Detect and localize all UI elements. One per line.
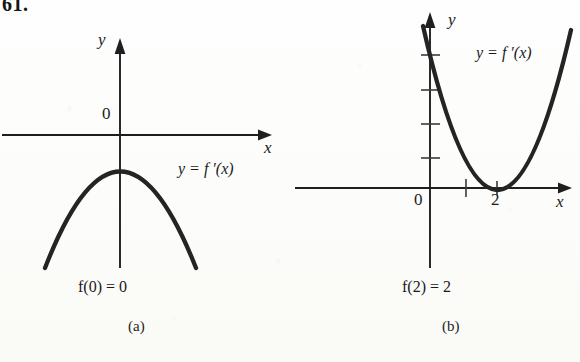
figure-panel-a: y x 0 y = f ′(x) f(0) = 0 (a) <box>0 0 290 362</box>
figure-panel-b: y x 0 2 y = f ′(x) f(2) = 2 (b) <box>290 0 580 362</box>
origin-label-a: 0 <box>102 104 111 124</box>
x-axis-label-a: x <box>264 138 272 158</box>
panel-caption-a: (a) <box>128 318 145 335</box>
curve-label-b: y = f ′(x) <box>476 44 532 62</box>
x-axis-label-b: x <box>556 192 564 212</box>
figure-page: 61. y x 0 y = f ′(x) f(0) = 0 (a) <box>0 0 580 362</box>
x-axis-a <box>2 130 272 141</box>
x-axis-b <box>295 183 572 194</box>
x-tick-label-2-b: 2 <box>491 190 500 210</box>
y-axis-label-b: y <box>448 10 456 30</box>
y-axis-a <box>115 38 126 268</box>
panel-b-graph <box>290 0 580 362</box>
curve-label-a: y = f ′(x) <box>178 160 234 178</box>
panel-a-graph <box>0 0 290 362</box>
condition-a: f(0) = 0 <box>78 278 127 296</box>
origin-label-b: 0 <box>414 190 423 210</box>
panel-caption-b: (b) <box>442 318 460 335</box>
y-axis-label-a: y <box>98 30 106 50</box>
condition-b: f(2) = 2 <box>402 278 451 296</box>
